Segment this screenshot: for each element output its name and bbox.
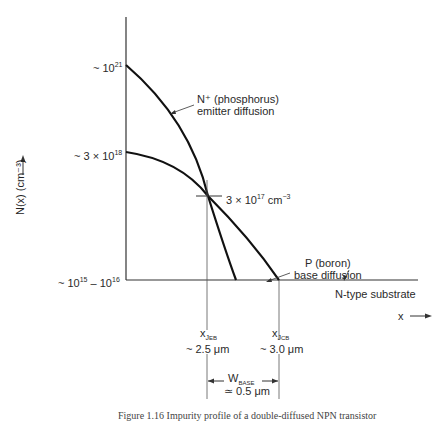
substrate-label: N-type substrate — [335, 288, 416, 300]
wbase-w: W — [228, 372, 238, 384]
base-width-value: ≃ 0.5 μm — [224, 385, 270, 397]
junction-eb-value: ~ 2.5 μm — [186, 343, 229, 355]
tick-text: – 10 — [88, 277, 112, 289]
junction-cb-value: ~ 3.0 μm — [260, 343, 303, 355]
crossing-text: 3 × 10 — [226, 194, 257, 206]
tick-sup: 16 — [112, 276, 120, 283]
crossing-sup: 17 — [257, 193, 265, 200]
x-axis-label: x — [398, 310, 404, 322]
emitter-label-line1: N⁺ (phosphorus) — [197, 93, 279, 105]
y-axis-label-text: N(x) (cm⁻³) — [14, 160, 26, 215]
tick-sup: 18 — [114, 149, 122, 156]
y-tick-substrate: ~ 1015 – 1016 — [58, 274, 120, 289]
jeb-value: ~ 2.5 μm — [186, 343, 229, 355]
arrow-left-icon — [208, 379, 214, 384]
crossing-label: 3 × 1017 cm−3 — [226, 191, 290, 206]
tick-sup: 15 — [80, 276, 88, 283]
x-label-text: x — [398, 310, 404, 322]
y-axis-label: N(x) (cm⁻³) — [14, 160, 27, 215]
tick-sup: 21 — [115, 61, 123, 68]
wbase-value: ≃ 0.5 μm — [224, 385, 270, 397]
crossing-unit-sup: −3 — [282, 193, 290, 200]
arrow-right-icon — [272, 379, 278, 384]
emitter-label-line2: emitter diffusion — [197, 105, 279, 117]
junction-eb-symbol: xJEB — [200, 327, 217, 344]
tick-text: ~ 10 — [93, 62, 115, 74]
base-label-line2: base diffusion — [294, 269, 362, 281]
tick-text: ~ 3 × 10 — [74, 150, 114, 162]
caption-text: Figure 1.16 Impurity profile of a double… — [118, 410, 376, 421]
substrate-text: N-type substrate — [335, 288, 416, 300]
crossing-unit: cm — [265, 194, 283, 206]
base-label-line1: P (boron) — [294, 257, 362, 269]
junction-cb-symbol: xJCB — [272, 327, 289, 344]
tick-text: ~ 10 — [58, 277, 80, 289]
y-tick-3e18: ~ 3 × 1018 — [74, 147, 122, 162]
base-label: P (boron) base diffusion — [294, 257, 362, 281]
jcb-value: ~ 3.0 μm — [260, 343, 303, 355]
jeb-sub2: EB — [209, 335, 217, 341]
jcb-sub2: CB — [281, 335, 289, 341]
base-diffusion-curve — [126, 152, 279, 280]
y-tick-1e21: ~ 1021 — [93, 59, 123, 74]
emitter-label: N⁺ (phosphorus) emitter diffusion — [197, 93, 279, 117]
figure-caption: Figure 1.16 Impurity profile of a double… — [118, 410, 376, 421]
x-arrow-icon — [425, 314, 432, 319]
